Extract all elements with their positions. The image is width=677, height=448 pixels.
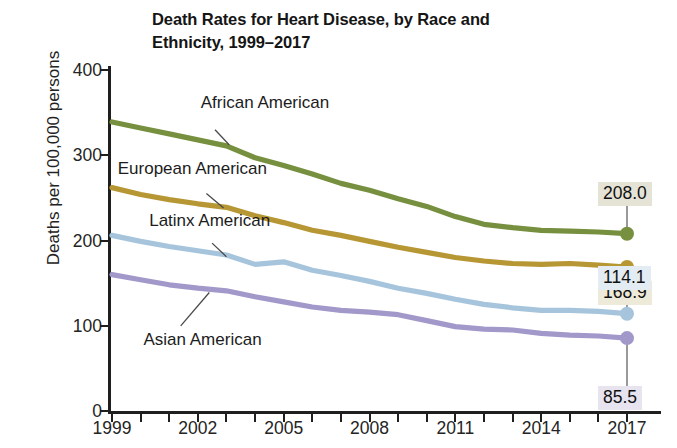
y-axis-tick-labels: 0100200300400: [44, 0, 102, 448]
y-axis-tick: [100, 154, 110, 156]
x-axis-line: [108, 411, 661, 414]
x-axis-tick: [483, 413, 485, 422]
x-axis-tick: [140, 413, 142, 422]
x-tick-label: 1999: [93, 418, 132, 439]
chart-title-line-1: Death Rates for Heart Disease, by Race a…: [152, 10, 490, 28]
series-endpoint-marker: [620, 227, 634, 241]
series-label-leader-line: [181, 293, 210, 326]
series-endpoint-marker: [620, 331, 634, 345]
x-tick-label: 2014: [522, 418, 561, 439]
y-axis-tick: [100, 240, 110, 242]
x-axis-tick: [311, 413, 313, 422]
y-axis-tick: [100, 410, 110, 412]
y-tick-label: 100: [56, 315, 102, 336]
series-label-african-american: African American: [201, 93, 330, 113]
series-label-latinx-american: Latinx American: [149, 211, 270, 231]
x-tick-label: 2017: [608, 418, 647, 439]
x-axis-tick: [225, 413, 227, 422]
chart-title: Death Rates for Heart Disease, by Race a…: [152, 8, 582, 55]
x-axis-tick: [569, 413, 571, 422]
chart-container: Death Rates for Heart Disease, by Race a…: [0, 0, 677, 448]
series-label-asian-american: Asian American: [143, 330, 261, 350]
series-label-leader-line: [215, 130, 229, 145]
x-axis-tick: [597, 413, 599, 422]
series-label-leader-line: [212, 243, 226, 257]
x-axis-tick: [512, 413, 514, 422]
x-axis-tick: [254, 413, 256, 422]
series-label-leader-line: [206, 194, 223, 209]
y-axis-tick: [100, 69, 110, 71]
x-tick-label: 2011: [437, 418, 475, 439]
y-tick-label: 400: [56, 60, 102, 81]
series-label-european-american: European American: [118, 159, 267, 179]
chart-title-line-2: Ethnicity, 1999–2017: [152, 33, 310, 51]
x-tick-label: 2008: [350, 418, 389, 439]
y-axis-tick: [100, 325, 110, 327]
series-line-asian-american: [112, 275, 627, 339]
y-tick-label: 300: [56, 145, 102, 166]
series-endpoint-marker: [620, 307, 634, 321]
y-tick-label: 200: [56, 230, 102, 251]
x-tick-label: 2005: [264, 418, 303, 439]
x-tick-label: 2002: [178, 418, 217, 439]
end-value-callout: 208.0: [598, 182, 652, 206]
x-axis-tick: [397, 413, 399, 422]
x-axis-tick: [340, 413, 342, 422]
end-value-callout: 85.5: [598, 386, 642, 410]
x-axis-tick: [168, 413, 170, 422]
end-value-callout: 114.1: [598, 266, 651, 290]
series-line-latinx-american: [112, 235, 627, 313]
x-axis-tick: [426, 413, 428, 422]
